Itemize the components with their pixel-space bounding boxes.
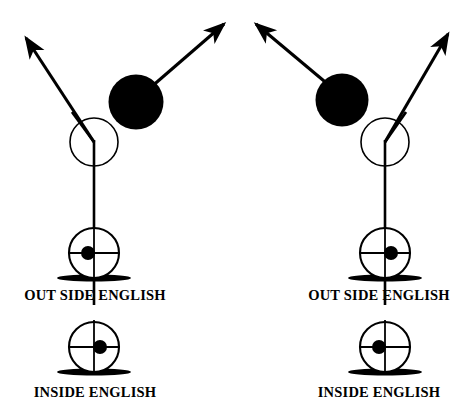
object-ball-path-arrow-left [150, 24, 224, 88]
aim-marker-outside-left [57, 226, 131, 282]
object-ball-right [316, 74, 369, 127]
right-panel-group [256, 24, 448, 376]
left-panel-group [26, 24, 224, 376]
diagram-canvas [0, 0, 474, 420]
aim-contact-spot-inside-left [93, 340, 107, 354]
aim-contact-spot-outside-right [384, 246, 398, 260]
label-inside-english-right: INSIDE ENGLISH [284, 385, 474, 400]
label-inside-english-left: INSIDE ENGLISH [0, 385, 190, 400]
object-ball-path-arrow-right [256, 24, 330, 86]
aim-marker-inside-right [348, 320, 422, 376]
label-outside-english-right: OUT SIDE ENGLISH [284, 288, 474, 303]
aim-marker-outside-right [348, 226, 422, 282]
cue-ball-path-arrow-right [385, 34, 448, 142]
object-ball-left [109, 75, 164, 130]
billiards-english-figure: OUT SIDE ENGLISH INSIDE ENGLISH OUT SIDE… [0, 0, 474, 420]
aim-marker-inside-left [57, 320, 131, 376]
label-outside-english-left: OUT SIDE ENGLISH [0, 288, 190, 303]
aim-contact-spot-inside-right [372, 340, 386, 354]
aim-contact-spot-outside-left [81, 246, 95, 260]
